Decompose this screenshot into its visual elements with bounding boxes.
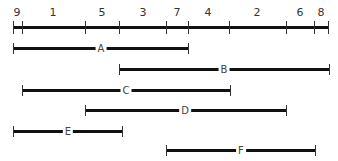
- interval-label: C: [121, 86, 132, 96]
- axis-line: [13, 26, 329, 29]
- interval-start-cap: [166, 145, 167, 156]
- interval-label: F: [236, 146, 246, 156]
- segment-label: 8: [318, 7, 325, 18]
- segment-label: 5: [99, 7, 106, 18]
- interval-end-cap: [329, 64, 330, 75]
- interval-end-cap: [286, 105, 287, 116]
- segment-label: 9: [14, 7, 21, 18]
- axis-tick: [22, 21, 23, 34]
- interval-start-cap: [13, 43, 14, 54]
- segment-label: 1: [50, 7, 57, 18]
- segment-label: 4: [205, 7, 212, 18]
- interval-start-cap: [85, 105, 86, 116]
- axis-tick: [166, 21, 167, 34]
- axis-tick: [119, 21, 120, 34]
- axis-tick: [229, 21, 230, 34]
- interval-label: B: [219, 65, 230, 75]
- axis-tick: [13, 21, 14, 34]
- interval-end-cap: [315, 145, 316, 156]
- axis-tick: [286, 21, 287, 34]
- interval-end-cap: [122, 126, 123, 137]
- interval-start-cap: [119, 64, 120, 75]
- interval-start-cap: [22, 85, 23, 96]
- interval-end-cap: [230, 85, 231, 96]
- interval-end-cap: [188, 43, 189, 54]
- axis-tick: [85, 21, 86, 34]
- interval-start-cap: [13, 126, 14, 137]
- axis-tick: [328, 21, 329, 34]
- interval-diagram: 915374268 ABCDEF: [0, 0, 338, 161]
- interval-label: E: [63, 127, 73, 137]
- interval-label: A: [96, 44, 107, 54]
- axis-tick: [188, 21, 189, 34]
- segment-label: 6: [297, 7, 304, 18]
- segment-label: 7: [174, 7, 181, 18]
- segment-label: 2: [254, 7, 261, 18]
- interval-label: D: [179, 106, 191, 116]
- segment-label: 3: [140, 7, 147, 18]
- axis-tick: [314, 21, 315, 34]
